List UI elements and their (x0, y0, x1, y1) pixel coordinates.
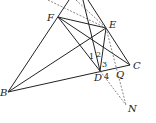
label-F: F (46, 12, 55, 23)
segment-BC (8, 65, 130, 92)
segment-BF-extended (8, 0, 69, 92)
angle-label-1: 1 (89, 52, 94, 61)
angle-label-2: 2 (96, 50, 101, 59)
label-C: C (133, 60, 141, 71)
label-Q: Q (116, 69, 124, 80)
angle-label-3: 3 (102, 60, 107, 69)
segment-AC (88, 0, 130, 65)
angle-label-4: 4 (104, 72, 109, 81)
geometry-diagram: F E B C D Q N 1 2 3 4 (0, 0, 156, 123)
label-D: D (93, 72, 102, 83)
label-B: B (0, 87, 7, 98)
label-E: E (108, 19, 117, 30)
label-N: N (127, 103, 138, 114)
